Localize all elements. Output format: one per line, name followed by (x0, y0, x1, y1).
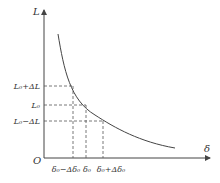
diagram-canvas: L δ O L₀+ΔL L₀ L₀−ΔL δ₀−Δδ₀ δ₀ δ₀+Δδ₀ (0, 0, 220, 183)
l-delta-curve (58, 34, 175, 148)
x-axis-label: δ (204, 143, 210, 154)
origin-label: O (33, 155, 41, 166)
x-tick-d0: δ₀ (83, 165, 92, 174)
y-axis-label: L (32, 6, 40, 17)
y-tick-l0-minus: L₀−ΔL (13, 117, 40, 126)
x-tick-d0-plus: δ₀+Δδ₀ (97, 165, 126, 174)
guide-l0-minus (44, 121, 103, 158)
guide-l0-plus (44, 86, 73, 158)
y-tick-l0: L₀ (30, 101, 40, 110)
x-tick-d0-minus: δ₀−Δδ₀ (52, 165, 81, 174)
y-tick-l0-plus: L₀+ΔL (13, 82, 40, 91)
guide-l0 (44, 105, 86, 158)
